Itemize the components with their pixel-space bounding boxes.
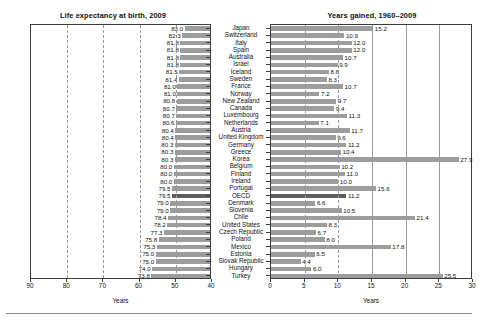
right-bar-row: 12.0 (271, 40, 471, 47)
left-bar-row: 79.5 (31, 193, 210, 200)
left-bar-row: 80.0 (31, 163, 210, 170)
years-gained-bar (271, 121, 319, 126)
row-tick (206, 188, 210, 189)
row-tick (206, 64, 210, 65)
years-gained-value: 4.4 (302, 258, 311, 265)
country-label: Austria (212, 126, 270, 133)
years-gained-bar (271, 252, 315, 257)
years-gained-value: 8.0 (326, 236, 335, 243)
years-gained-bar (271, 84, 343, 89)
country-label: Chile (212, 213, 270, 220)
left-bar-row: 80.3 (31, 142, 210, 149)
row-tick (206, 159, 210, 160)
row-tick (206, 86, 210, 87)
life-expectancy-value: 80.4 (162, 127, 174, 134)
right-bar-row: 8.0 (271, 236, 471, 243)
years-gained-bar (271, 99, 336, 104)
life-expectancy-bar (151, 274, 210, 279)
left-bar-row: 83.0 (31, 25, 210, 32)
life-expectancy-bar (175, 150, 210, 155)
row-tick (206, 35, 210, 36)
life-expectancy-value: 81.0 (164, 90, 176, 97)
life-expectancy-value: 79.5 (158, 192, 170, 199)
life-expectancy-bar (174, 172, 210, 177)
life-expectancy-bar (175, 128, 210, 133)
country-label: Luxembourg (212, 111, 270, 118)
right-bar-row: 21.4 (271, 214, 471, 221)
years-gained-bar (271, 135, 336, 140)
years-gained-value: 15.2 (375, 25, 387, 32)
years-gained-value: 17.8 (392, 243, 404, 250)
life-expectancy-bar (174, 179, 210, 184)
country-label: Slovak Republic (212, 257, 270, 264)
country-label: New Zealand (212, 97, 270, 104)
row-tick (206, 57, 210, 58)
life-expectancy-bar (156, 259, 210, 264)
country-label: Mexico (212, 243, 270, 250)
row-tick (206, 217, 210, 218)
years-gained-value: 15.6 (378, 185, 390, 192)
years-gained-value: 11.2 (348, 192, 360, 199)
life-expectancy-value: 80.0 (160, 163, 172, 170)
country-label: Netherlands (212, 119, 270, 126)
row-tick (206, 254, 210, 255)
life-expectancy-bar (167, 223, 210, 228)
life-expectancy-bar (175, 143, 210, 148)
years-gained-value: 9.4 (336, 105, 345, 112)
left-bar-row: 79.0 (31, 200, 210, 207)
life-expectancy-value: 81.8 (167, 61, 179, 68)
right-bar-row: 10.7 (271, 83, 471, 90)
years-gained-bar (271, 208, 342, 213)
right-bar-row: 4.4 (271, 258, 471, 265)
right-x-axis: 051015202530 (270, 279, 472, 289)
years-gained-value: 10.2 (341, 163, 353, 170)
life-expectancy-bar (172, 186, 210, 191)
axis-tick-label: 80 (63, 282, 70, 290)
row-tick (206, 261, 210, 262)
years-gained-bar (271, 237, 325, 242)
right-bar-row: 9.9 (271, 61, 471, 68)
years-gained-value: 12.0 (353, 46, 365, 53)
years-gained-value: 10.5 (343, 207, 355, 214)
life-expectancy-value: 82.3 (169, 32, 181, 39)
left-bar-row: 74.0 (31, 265, 210, 272)
row-tick (206, 71, 210, 72)
life-expectancy-bar (176, 106, 210, 111)
life-expectancy-bar (175, 135, 210, 140)
left-bar-row: 75.8 (31, 236, 210, 243)
left-bar-row: 79.5 (31, 185, 210, 192)
row-tick (206, 137, 210, 138)
axis-tick-label: 40 (207, 282, 214, 290)
country-label: Israel (212, 60, 270, 67)
years-gained-value: 6.6 (317, 199, 326, 206)
country-label: Australia (212, 53, 270, 60)
figure-root: Life expectancy at birth, 2009 Years gai… (0, 0, 479, 323)
left-bar-row: 82.3 (31, 32, 210, 39)
country-label: Iceland (212, 68, 270, 75)
axis-tick-label: 50 (171, 282, 178, 290)
years-gained-value: 21.4 (417, 214, 429, 221)
left-bar-row: 80.7 (31, 112, 210, 119)
right-bar-row: 6.0 (271, 265, 471, 272)
row-tick (206, 210, 210, 211)
years-gained-bar (271, 92, 319, 97)
left-bar-row: 80.3 (31, 149, 210, 156)
axis-tick-label: 60 (135, 282, 142, 290)
right-bar-row: 9.4 (271, 105, 471, 112)
life-expectancy-value: 79.5 (158, 185, 170, 192)
country-label: Greece (212, 148, 270, 155)
life-expectancy-value: 81.0 (164, 83, 176, 90)
right-bar-row: 6.5 (271, 251, 471, 258)
right-bar-row: 9.6 (271, 134, 471, 141)
country-label: France (212, 82, 270, 89)
country-label: OECD (212, 192, 270, 199)
years-gained-value: 10.0 (340, 178, 352, 185)
left-bar-row: 80.4 (31, 134, 210, 141)
country-label: Estonia (212, 250, 270, 257)
left-bar-row: 79.0 (31, 207, 210, 214)
life-expectancy-bar (176, 114, 210, 119)
left-bar-row: 77.3 (31, 229, 210, 236)
row-tick (206, 166, 210, 167)
country-label: Switzerland (212, 31, 270, 38)
life-expectancy-value: 80.6 (162, 119, 174, 126)
